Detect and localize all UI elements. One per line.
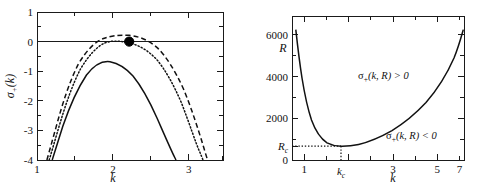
right-ytick-4000: 4000 — [266, 71, 289, 83]
right-xtick-kc: kc — [337, 165, 346, 180]
panel-left-growth-rate: 1 0 -1 -2 -3 -4 1 2 3 k σ+(k) — [0, 0, 241, 185]
left-x-ticks — [37, 12, 223, 160]
left-y-ticks-right — [217, 27, 223, 145]
right-xtick-1: 1 — [301, 163, 307, 175]
right-annotation-negative: σ+(k, R) < 0 — [386, 130, 438, 144]
right-xtick-7: 7 — [457, 163, 463, 175]
right-ytick-0: 0 — [283, 154, 289, 166]
neutral-point-marker — [125, 37, 134, 46]
right-annot-neg-rest: (k, R) < 0 — [396, 130, 438, 142]
figure-container: 1 0 -1 -2 -3 -4 1 2 3 k σ+(k) — [0, 0, 482, 185]
right-xaxis-label: k — [390, 171, 396, 185]
left-xtick-3: 3 — [186, 163, 192, 175]
left-y-ticks — [37, 12, 43, 160]
left-curve-solid-subcritical — [52, 62, 176, 160]
left-ytick-m4: -4 — [24, 154, 34, 166]
right-ytick-6000: 6000 — [266, 29, 289, 41]
left-ytick-m3: -3 — [24, 124, 34, 136]
right-ytick-Rc: Rc — [277, 140, 289, 155]
svg-text:σ+(k): σ+(k) — [3, 74, 19, 98]
right-annotation-positive: σ+(k, R) > 0 — [358, 70, 410, 84]
left-yaxis-label: σ+(k) — [3, 74, 19, 98]
left-xtick-1: 1 — [34, 163, 40, 175]
right-xtick-kc-sub: c — [342, 171, 346, 180]
left-ytick-1: 1 — [28, 6, 34, 18]
left-curve-dashed-supercritical — [47, 35, 208, 160]
left-ytick-0: 0 — [28, 36, 34, 48]
left-plot-frame — [37, 12, 223, 160]
right-yaxis-label: R — [278, 41, 287, 55]
left-yaxis-arg: (k) — [3, 74, 17, 87]
right-xtick-5: 5 — [435, 163, 441, 175]
right-y-ticks — [292, 35, 464, 160]
left-ytick-m1: -1 — [24, 65, 33, 77]
left-ytick-m2: -2 — [24, 95, 33, 107]
right-annot-pos-rest: (k, R) > 0 — [368, 70, 410, 82]
right-ytick-Rc-sub: c — [285, 146, 289, 155]
left-xaxis-label: k — [110, 171, 116, 185]
right-ytick-2000: 2000 — [266, 112, 289, 124]
right-neutral-stability-curve — [296, 30, 464, 147]
panel-right-neutral-curve: 0 2000 4000 6000 Rc 1 3 5 7 kc k R σ+(k,… — [241, 0, 482, 185]
